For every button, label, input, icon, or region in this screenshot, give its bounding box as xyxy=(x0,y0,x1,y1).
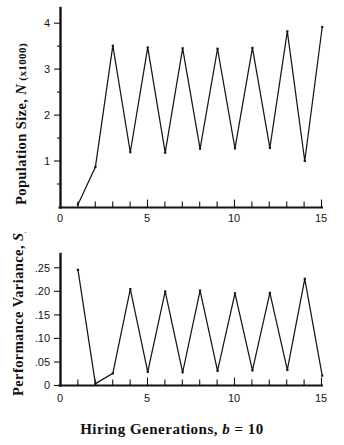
data-series-population xyxy=(78,27,322,204)
svg-text:2: 2 xyxy=(44,109,50,121)
svg-text:.05: .05 xyxy=(35,356,50,368)
x-tick-labels-bottom: 0 5 10 15 xyxy=(57,392,327,404)
svg-text:3: 3 xyxy=(44,63,50,75)
svg-text:0: 0 xyxy=(57,392,63,404)
svg-text:0: 0 xyxy=(44,379,50,391)
y-axis-title-bottom: Performance Variance, Sz2 xyxy=(8,232,28,396)
x-tick-labels-top: 0 5 10 15 xyxy=(57,212,327,224)
svg-text:.10: .10 xyxy=(35,332,50,344)
y-tick-labels-bottom: 0 .05 .10 .15 .20 .25 xyxy=(35,262,50,391)
svg-text:0: 0 xyxy=(57,212,63,224)
scientific-figure: Population Size, N (x1000) 1 2 3 4 xyxy=(0,0,344,445)
svg-text:Performance Variance, Sz2: Performance Variance, Sz2 xyxy=(8,232,28,396)
svg-text:10: 10 xyxy=(228,212,240,224)
svg-text:15: 15 xyxy=(315,392,327,404)
chart-performance-variance: Performance Variance, Sz2 0 .05 .10 .15 … xyxy=(0,232,344,445)
x-ticks-bottom xyxy=(78,378,322,386)
svg-text:.25: .25 xyxy=(35,262,50,274)
y-axis-title-top: Population Size, N (x1000) xyxy=(13,43,29,205)
data-series-variance xyxy=(78,270,322,384)
x-ticks-top xyxy=(78,200,322,208)
svg-text:.15: .15 xyxy=(35,309,50,321)
y-tick-labels-top: 1 2 3 4 xyxy=(44,17,50,167)
svg-text:5: 5 xyxy=(144,392,150,404)
chart-population-size: Population Size, N (x1000) 1 2 3 4 xyxy=(0,0,344,232)
svg-text:5: 5 xyxy=(144,212,150,224)
svg-text:4: 4 xyxy=(44,17,50,29)
svg-text:.20: .20 xyxy=(35,285,50,297)
x-axis-title: Hiring Generations, b = 10 xyxy=(80,421,264,437)
svg-text:15: 15 xyxy=(315,212,327,224)
svg-text:1: 1 xyxy=(44,155,50,167)
svg-text:Population Size, N (x1000): Population Size, N (x1000) xyxy=(13,43,29,205)
svg-text:10: 10 xyxy=(228,392,240,404)
